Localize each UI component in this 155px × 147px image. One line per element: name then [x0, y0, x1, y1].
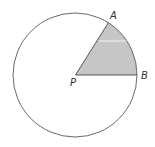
shaded-sector: [76, 23, 138, 76]
point-b-label: B: [141, 71, 148, 81]
circle-sector-diagram: [0, 0, 155, 147]
point-a-label: A: [110, 11, 117, 21]
center-p-label: P: [70, 78, 76, 88]
